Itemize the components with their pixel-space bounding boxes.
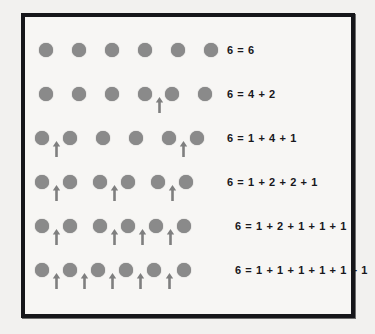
unit-dot — [35, 175, 49, 189]
up-arrow-icon — [166, 229, 175, 245]
up-arrow-icon — [110, 185, 119, 201]
dot-track — [31, 123, 221, 167]
unit-dot — [149, 219, 163, 233]
unit-dot — [105, 43, 119, 57]
unit-dot — [63, 263, 77, 277]
unit-dot — [119, 263, 133, 277]
composition-equation: 6 = 1 + 4 + 1 — [227, 132, 297, 144]
up-arrow-icon — [168, 185, 177, 201]
dot-track — [31, 211, 221, 255]
unit-dot — [204, 43, 218, 57]
unit-dot — [63, 219, 77, 233]
unit-dot — [72, 43, 86, 57]
unit-dot — [91, 263, 105, 277]
composition-row: 6 = 6 — [25, 35, 351, 79]
composition-equation: 6 = 1 + 1 + 1 + 1 + 1 + 1 — [235, 264, 368, 276]
up-arrow-icon — [108, 273, 117, 289]
unit-dot — [198, 87, 212, 101]
unit-dot — [121, 219, 135, 233]
unit-dot — [190, 131, 204, 145]
composition-row: 6 = 1 + 4 + 1 — [25, 123, 351, 167]
composition-equation: 6 = 1 + 2 + 2 + 1 — [227, 176, 318, 188]
unit-dot — [177, 263, 191, 277]
up-arrow-icon — [138, 229, 147, 245]
figure-panel: 6 = 66 = 4 + 26 = 1 + 4 + 16 = 1 + 2 + 2… — [21, 13, 355, 318]
unit-dot — [63, 131, 77, 145]
composition-row: 6 = 1 + 2 + 1 + 1 + 1 — [25, 211, 351, 255]
unit-dot — [35, 263, 49, 277]
unit-dot — [35, 131, 49, 145]
unit-dot — [162, 131, 176, 145]
unit-dot — [96, 131, 110, 145]
unit-dot — [93, 219, 107, 233]
dot-track — [31, 255, 221, 299]
up-arrow-icon — [80, 273, 89, 289]
unit-dot — [93, 175, 107, 189]
up-arrow-icon — [165, 273, 174, 289]
up-arrow-icon — [52, 273, 61, 289]
composition-row: 6 = 1 + 2 + 2 + 1 — [25, 167, 351, 211]
dot-track — [31, 35, 221, 79]
composition-equation: 6 = 4 + 2 — [227, 88, 276, 100]
unit-dot — [138, 43, 152, 57]
unit-dot — [105, 87, 119, 101]
unit-dot — [165, 87, 179, 101]
unit-dot — [129, 131, 143, 145]
up-arrow-icon — [110, 229, 119, 245]
unit-dot — [179, 175, 193, 189]
up-arrow-icon — [52, 141, 61, 157]
unit-dot — [151, 175, 165, 189]
unit-dot — [138, 87, 152, 101]
composition-equation: 6 = 6 — [227, 44, 255, 56]
composition-rows: 6 = 66 = 4 + 26 = 1 + 4 + 16 = 1 + 2 + 2… — [25, 17, 351, 314]
composition-equation: 6 = 1 + 2 + 1 + 1 + 1 — [235, 220, 347, 232]
unit-dot — [39, 43, 53, 57]
unit-dot — [147, 263, 161, 277]
unit-dot — [39, 87, 53, 101]
unit-dot — [63, 175, 77, 189]
up-arrow-icon — [179, 141, 188, 157]
dot-track — [31, 167, 221, 211]
unit-dot — [35, 219, 49, 233]
unit-dot — [171, 43, 185, 57]
unit-dot — [121, 175, 135, 189]
up-arrow-icon — [155, 97, 164, 113]
up-arrow-icon — [136, 273, 145, 289]
composition-row: 6 = 4 + 2 — [25, 79, 351, 123]
up-arrow-icon — [52, 185, 61, 201]
unit-dot — [72, 87, 86, 101]
unit-dot — [177, 219, 191, 233]
up-arrow-icon — [52, 229, 61, 245]
composition-row: 6 = 1 + 1 + 1 + 1 + 1 + 1 — [25, 255, 351, 299]
dot-track — [31, 79, 221, 123]
